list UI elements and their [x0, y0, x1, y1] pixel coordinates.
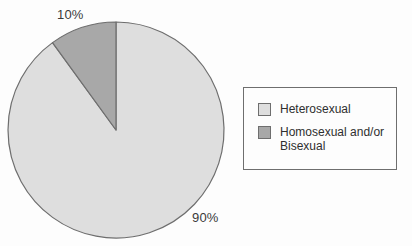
legend-swatch-homosexual-bisexual — [258, 126, 271, 139]
pie-data-label-major: 90% — [192, 210, 219, 225]
legend-label-heterosexual: Heterosexual — [280, 102, 351, 116]
legend: Heterosexual Homosexual and/or Bisexual — [243, 87, 397, 170]
legend-item-heterosexual[interactable]: Heterosexual — [258, 102, 351, 116]
legend-item-homosexual-bisexual[interactable]: Homosexual and/or Bisexual — [258, 125, 384, 153]
pie-data-label-minor: 10% — [57, 7, 84, 22]
pie-chart-figure: 10% 90% Heterosexual Homosexual and/or B… — [0, 0, 412, 246]
legend-label-homosexual-bisexual: Homosexual and/or Bisexual — [280, 125, 384, 153]
legend-swatch-heterosexual — [258, 103, 271, 116]
